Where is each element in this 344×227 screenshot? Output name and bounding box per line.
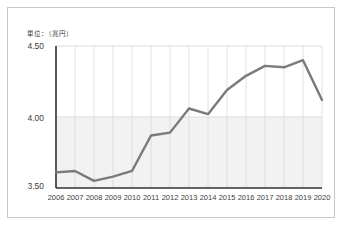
chart-frame: 単位：（兆円） 4.50 4.00 3.50 2006 2007 2008 20…	[7, 7, 335, 218]
plot-canvas	[8, 8, 336, 219]
line-chart: 単位：（兆円） 4.50 4.00 3.50 2006 2007 2008 20…	[8, 8, 336, 219]
